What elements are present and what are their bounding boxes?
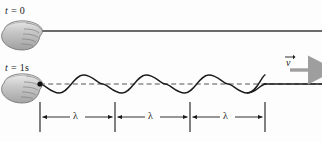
source-point-dot	[37, 81, 42, 86]
vector-arrow-overbar-icon	[285, 54, 295, 59]
time-label-t1: t = 1s	[5, 62, 29, 73]
wavelength-label-3: λ	[223, 110, 228, 121]
time-variable-bottom: t	[5, 62, 8, 73]
hand-fist-bottom	[2, 74, 43, 103]
time-value-bottom: = 1s	[11, 62, 29, 73]
figure-canvas	[0, 0, 322, 141]
wavelength-label-2: λ	[148, 110, 153, 121]
velocity-label: v	[286, 57, 290, 68]
wave-figure: t = 0	[0, 0, 322, 141]
hand-fist-top	[2, 21, 43, 50]
wavelength-label-1: λ	[73, 110, 78, 121]
